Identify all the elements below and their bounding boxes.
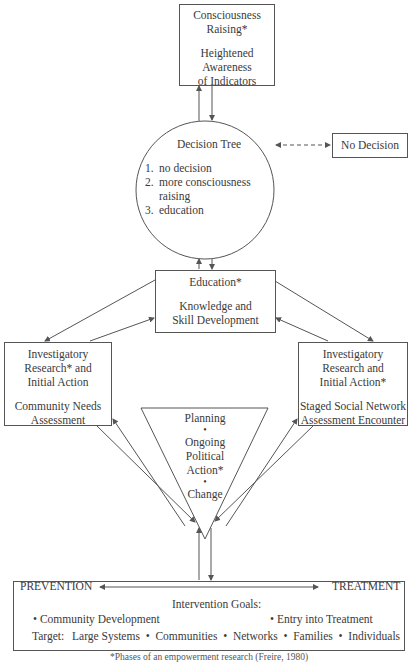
right-line-4: Staged Social Network [299,399,407,413]
intervention-goals-title: Intervention Goals: [172,598,261,610]
triangle-line-2: Ongoing [160,435,250,449]
right-line-5: Assessment Encounter [299,413,407,427]
triangle-line-4: Action* [160,463,250,477]
no-decision-box: No Decision [332,133,408,158]
social-network-box: Investigatory Research and Initial Actio… [298,342,408,426]
right-line-1: Investigatory [299,347,407,361]
goal-community-development: • Community Development [33,613,160,625]
decision-item: raising [145,189,273,203]
right-line-2: Research and [299,361,407,375]
bullet-icon: • [160,425,250,435]
prevention-label: PREVENTION [20,580,92,592]
decision-item: 2. more consciousness [145,175,273,189]
decision-tree: Decision Tree 1. no decision 2. more con… [145,137,273,217]
left-line-3: Initial Action [5,375,111,389]
left-line-1: Investigatory [5,347,111,361]
consciousness-title-2: Raising* [180,22,274,36]
no-decision-label: No Decision [341,139,399,151]
left-line-2: Research* and [5,361,111,375]
right-line-3: Initial Action* [299,375,407,389]
footnote: *Phases of an empowerment research (Frei… [110,652,308,662]
consciousness-title: Consciousness [180,8,274,22]
decision-item: 3. education [145,203,273,217]
decision-tree-title: Decision Tree [145,137,273,151]
consciousness-line-3: of Indicators [180,74,274,88]
triangle-line-3: Political [160,449,250,463]
consciousness-line-1: Heightened [180,46,274,60]
target-label: Target: [32,630,64,642]
education-line-1: Knowledge and [156,299,275,313]
planning-triangle: Planning • Ongoing Political Action* • C… [160,411,250,501]
triangle-line-1: Planning [160,411,250,425]
triangle-line-5: Change [160,487,250,501]
education-title: Education* [156,275,275,289]
consciousness-line-2: Awareness [180,60,274,74]
education-box: Education* Knowledge and Skill Developme… [155,270,276,333]
target-list: Large Systems • Communities • Networks •… [72,630,400,642]
treatment-label: TREATMENT [332,580,400,592]
target-row: Target: Large Systems • Communities • Ne… [32,630,400,642]
education-line-2: Skill Development [156,313,275,327]
bullet-icon: • [160,477,250,487]
community-needs-box: Investigatory Research* and Initial Acti… [4,342,112,426]
consciousness-raising-box: Consciousness Raising* Heightened Awaren… [179,4,275,86]
left-line-5: Assessment [5,413,111,427]
decision-item: 1. no decision [145,161,273,175]
left-line-4: Community Needs [5,399,111,413]
goal-entry-into-treatment: • Entry into Treatment [270,613,373,625]
